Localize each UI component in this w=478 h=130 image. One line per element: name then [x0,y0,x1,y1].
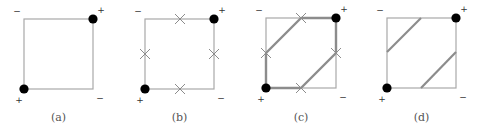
square [266,18,336,88]
panel-caption: (a) [51,111,66,124]
panel-caption: (c) [294,111,309,124]
sign-top-left: − [13,6,21,16]
sign-bottom-left: + [378,94,386,104]
square [387,18,456,88]
sign-bottom-right: − [217,93,225,103]
sign-bottom-right: − [96,93,104,103]
vertex-dot-icon [331,13,340,22]
vertex-dot-icon [140,84,149,93]
panel-caption: (d) [414,111,430,124]
sign-top-left: − [134,6,142,16]
diagonal-line [421,52,456,88]
sign-top-left: − [255,5,263,15]
sign-top-right: + [218,5,226,15]
sign-bottom-right: − [459,92,467,102]
panel-d: −++−(d) [376,4,468,124]
thick-path [266,18,336,88]
vertex-dot-icon [451,13,460,22]
sign-top-right: + [340,4,348,14]
sign-bottom-left: + [257,94,265,104]
panel-b: −++−(b) [134,5,226,124]
vertex-dot-icon [261,83,270,92]
square [145,19,214,89]
panel-caption: (b) [172,111,188,124]
sign-bottom-right: − [339,92,347,102]
vertex-dot-icon [382,83,391,92]
sign-top-left: − [376,5,384,15]
sign-bottom-left: + [15,95,23,105]
sign-top-right: + [460,4,468,14]
figure: −++−(a)−++−(b)−++−(c)−++−(d) [0,0,478,130]
sign-top-right: + [97,5,105,15]
vertex-dot-icon [19,84,28,93]
panel-c: −++−(c) [255,4,348,124]
thick-path [266,18,336,88]
diagonal-line [387,18,421,52]
vertex-dot-icon [88,14,97,23]
square [24,19,93,89]
sign-bottom-left: + [136,95,144,105]
vertex-dot-icon [209,14,218,23]
panel-a: −++−(a) [13,5,105,124]
